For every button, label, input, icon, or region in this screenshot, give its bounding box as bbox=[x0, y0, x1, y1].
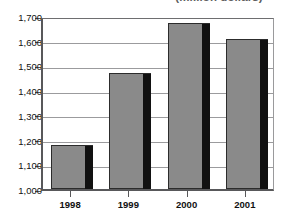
y-axis-tick-label: 1,100 bbox=[0, 161, 42, 170]
y-axis-tick-label: 1,300 bbox=[0, 112, 42, 121]
bar-chart: (million dollars) 1,0001,1001,2001,3001,… bbox=[0, 0, 288, 220]
x-axis-tick-label: 1998 bbox=[40, 200, 100, 210]
x-axis-tick-mark bbox=[245, 191, 246, 197]
y-axis-tick-label: 1,200 bbox=[0, 137, 42, 146]
y-axis-tick-label: 1,400 bbox=[0, 87, 42, 96]
bar-shadow bbox=[202, 24, 210, 189]
chart-title: (million dollars) bbox=[150, 0, 288, 5]
plot-area bbox=[41, 18, 274, 191]
bar bbox=[51, 145, 93, 189]
x-axis-tick-label: 2001 bbox=[215, 200, 275, 210]
y-axis-tick-label: 1,700 bbox=[0, 13, 42, 22]
bar bbox=[109, 73, 151, 189]
x-axis-tick-mark bbox=[187, 191, 188, 197]
x-axis-tick-label: 2000 bbox=[157, 200, 217, 210]
bar-shadow bbox=[260, 40, 268, 189]
y-axis-tick-label: 1,000 bbox=[0, 186, 42, 195]
bar bbox=[226, 39, 268, 189]
bar bbox=[168, 23, 210, 189]
x-axis-tick-label: 1999 bbox=[98, 200, 158, 210]
bar-shadow bbox=[143, 74, 151, 189]
bar-shadow bbox=[85, 146, 93, 189]
x-axis-tick-mark bbox=[70, 191, 71, 197]
x-axis-tick-mark bbox=[128, 191, 129, 197]
y-axis-tick-label: 1,500 bbox=[0, 62, 42, 71]
y-axis-tick-label: 1,600 bbox=[0, 38, 42, 47]
